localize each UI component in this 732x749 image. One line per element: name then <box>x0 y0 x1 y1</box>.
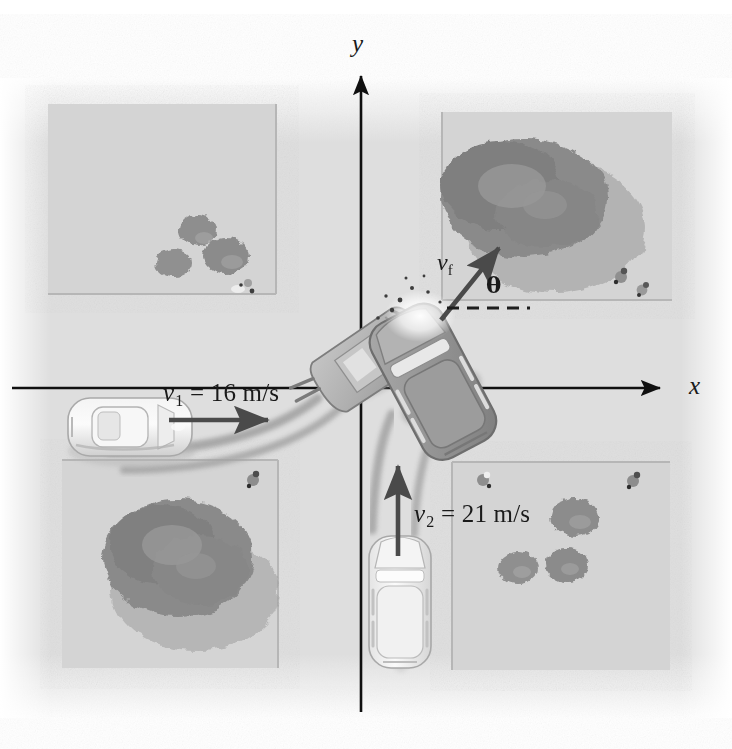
y-axis-label: y <box>352 30 363 58</box>
vf-subscript: f <box>448 262 453 278</box>
figure-canvas: x y v1 = 16 m/s v2 = 21 m/s vf θ <box>0 0 732 749</box>
v1-unit: m/s <box>243 379 280 406</box>
x-axis-label: x <box>689 372 700 400</box>
v2-value: 21 <box>462 500 487 527</box>
collision-diagram <box>0 0 732 749</box>
lot-bottom-right <box>452 462 670 670</box>
lot-top-right <box>440 112 672 300</box>
lot-top-left <box>48 104 276 294</box>
vf-symbol: v <box>437 249 448 275</box>
theta-label: θ <box>486 271 501 298</box>
lot-bottom-left <box>62 460 280 668</box>
v2-equals: = <box>441 500 455 527</box>
vf-label: vf <box>437 249 453 279</box>
v2-symbol: v <box>414 500 425 527</box>
car-2-incoming <box>369 536 431 672</box>
v2-label: v2 = 21 m/s <box>414 500 530 531</box>
v1-value: 16 <box>211 379 236 406</box>
v2-subscript: 2 <box>425 513 434 530</box>
v2-unit: m/s <box>494 500 531 527</box>
v1-subscript: 1 <box>174 392 183 409</box>
v1-label: v1 = 16 m/s <box>163 379 279 410</box>
v1-symbol: v <box>163 379 174 406</box>
v1-equals: = <box>190 379 204 406</box>
